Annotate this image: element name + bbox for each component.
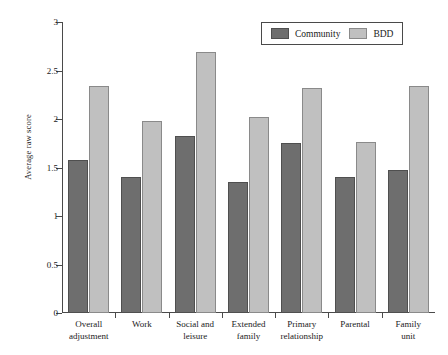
bar-community bbox=[388, 170, 408, 313]
y-tick-label: 2 bbox=[54, 114, 59, 124]
legend-entry-bdd: BDD bbox=[349, 28, 393, 39]
x-tick-mark bbox=[382, 313, 383, 318]
x-axis-label-line: relationship bbox=[252, 331, 352, 343]
bar-community bbox=[68, 160, 88, 313]
x-axis-label-line: Family bbox=[358, 319, 448, 331]
bar-group bbox=[228, 22, 269, 313]
bar-bdd bbox=[302, 88, 322, 313]
x-tick-mark bbox=[169, 313, 170, 318]
bar-community bbox=[228, 182, 248, 313]
x-tick-mark bbox=[328, 313, 329, 318]
legend-swatch-community-icon bbox=[271, 28, 289, 39]
y-tick-label: 1.5 bbox=[47, 163, 58, 173]
bar-community bbox=[175, 136, 195, 314]
bar-group bbox=[335, 22, 376, 313]
x-axis-label-line: unit bbox=[358, 331, 448, 343]
legend: Community BDD bbox=[261, 22, 403, 45]
legend-swatch-bdd-icon bbox=[349, 28, 367, 39]
x-tick-mark bbox=[222, 313, 223, 318]
x-tick-mark bbox=[115, 313, 116, 318]
plot-area: 00.511.522.53 bbox=[62, 22, 435, 313]
bar-community bbox=[281, 143, 301, 313]
bar-bdd bbox=[356, 142, 376, 313]
bar-group bbox=[121, 22, 162, 313]
legend-label-community: Community bbox=[295, 29, 340, 39]
bar-group bbox=[281, 22, 322, 313]
bar-bdd bbox=[196, 52, 216, 313]
y-axis-title: Average raw score bbox=[23, 67, 33, 227]
x-axis-label: Familyunit bbox=[358, 319, 448, 342]
x-tick-mark bbox=[275, 313, 276, 318]
bar-bdd bbox=[249, 117, 269, 313]
bar-community bbox=[335, 177, 355, 313]
y-tick-label: 0.5 bbox=[47, 260, 58, 270]
bar-community bbox=[121, 177, 141, 313]
bar-group bbox=[388, 22, 429, 313]
y-tick-label: 2.5 bbox=[47, 66, 58, 76]
bar-group bbox=[68, 22, 109, 313]
legend-entry-community: Community bbox=[271, 28, 340, 39]
bar-bdd bbox=[409, 86, 429, 313]
bar-chart: Average raw score 00.511.522.53 Overalla… bbox=[0, 0, 448, 355]
y-tick-label: 1 bbox=[54, 211, 59, 221]
bar-bdd bbox=[142, 121, 162, 313]
bar-group bbox=[175, 22, 216, 313]
bar-bdd bbox=[89, 86, 109, 313]
legend-label-bdd: BDD bbox=[373, 29, 393, 39]
x-axis-label-line: adjustment bbox=[39, 331, 139, 343]
y-axis-line bbox=[62, 22, 63, 313]
y-tick-label: 0 bbox=[54, 308, 59, 318]
y-tick-label: 3 bbox=[54, 17, 59, 27]
